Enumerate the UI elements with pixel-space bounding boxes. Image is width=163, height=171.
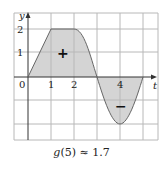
origin-label: 0: [19, 79, 25, 90]
t-axis-arrow-icon: [151, 75, 157, 80]
y-tick-2: 2: [17, 24, 23, 35]
area-chart: y t 0 1 2 4 2 1 + −: [0, 0, 163, 145]
t-axis-label: t: [153, 80, 158, 91]
minus-sign: −: [115, 98, 127, 114]
y-axis-label: y: [18, 10, 25, 21]
x-tick-4: 4: [117, 79, 123, 90]
caption-value: (5) ≈ 1.7: [60, 146, 109, 159]
x-tick-2: 2: [71, 79, 77, 90]
plus-sign: +: [57, 45, 69, 61]
caption: g(5) ≈ 1.7: [0, 146, 163, 159]
x-tick-1: 1: [48, 79, 54, 90]
y-tick-1: 1: [17, 47, 23, 58]
